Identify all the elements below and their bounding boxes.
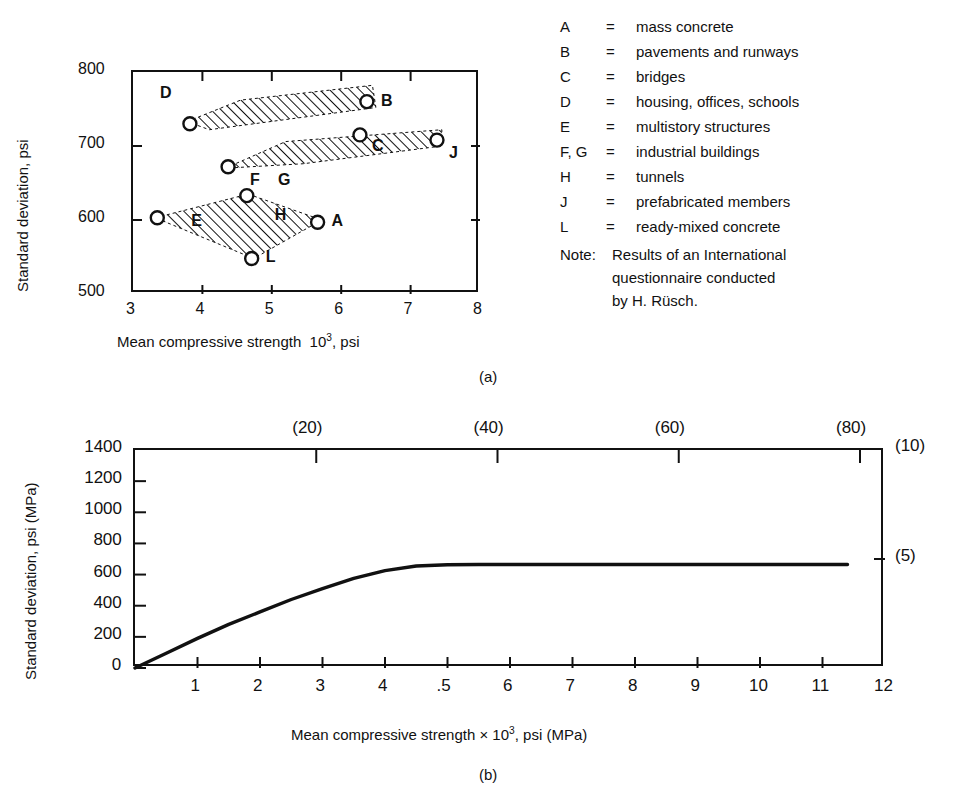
x-axis-title-pre: Mean compressive strength	[117, 333, 301, 350]
legend-item-description: mass concrete	[636, 14, 950, 39]
legend-item-description: housing, offices, schools	[636, 89, 950, 114]
point-label-l: L	[266, 248, 276, 266]
data-point-l	[245, 252, 258, 265]
x-tick-label-b-7: 7	[566, 676, 575, 696]
legend-item-equals: =	[606, 14, 636, 39]
panel-b-caption: (b)	[479, 766, 497, 783]
data-point-a	[311, 216, 324, 229]
legend-item-equals: =	[606, 164, 636, 189]
right-tick-label-5: (5)	[895, 546, 916, 566]
legend-item-j: J=prefabricated members	[560, 189, 950, 214]
legend-note-line: questionnaire conducted	[612, 266, 950, 289]
panel-a-chart: Standard deviation, psi Mean compressive…	[0, 0, 520, 390]
y-tick-label-500: 500	[78, 282, 105, 300]
legend-item-equals: =	[606, 114, 636, 139]
band-middle-band	[225, 130, 442, 168]
y-tick-label-b-800: 800	[93, 530, 121, 550]
y-tick-label-b-1400: 1400	[84, 437, 122, 457]
point-label-a: A	[332, 212, 344, 230]
y-tick-label-b-1000: 1000	[84, 499, 122, 519]
legend-item-key: B	[560, 39, 606, 64]
legend-item-key: E	[560, 114, 606, 139]
right-tick-label-10: (10)	[895, 436, 925, 456]
legend-note: Note: Results of an Internationalquestio…	[560, 243, 950, 312]
x-axis-title-b-pre: Mean compressive strength ×	[291, 726, 488, 743]
y-tick-label-b-600: 600	[93, 562, 121, 582]
x-axis-title-post: , psi	[332, 333, 360, 350]
legend-item-equals: =	[606, 64, 636, 89]
legend-item-description: prefabricated members	[636, 189, 950, 214]
x-tick-label-4: 4	[195, 300, 204, 318]
y-tick-label-800: 800	[78, 60, 105, 78]
legend-item-a: A=mass concrete	[560, 14, 950, 39]
top-tick-label-40: (40)	[474, 418, 504, 438]
point-label-h: H	[275, 206, 287, 224]
y-tick-label-600: 600	[78, 208, 105, 226]
legend-item-fg: F, G=industrial buildings	[560, 139, 950, 164]
data-point-b	[360, 95, 373, 108]
legend-item-description: ready-mixed concrete	[636, 214, 950, 239]
x-tick-label-b-2: 2	[253, 676, 262, 696]
x-tick-label-b-3: 3	[316, 676, 325, 696]
legend-item-description: tunnels	[636, 164, 950, 189]
x-tick-label-b-9: 9	[691, 676, 700, 696]
x-tick-label-7: 7	[404, 300, 413, 318]
legend-item-key: J	[560, 189, 606, 214]
x-tick-label-b-6: 6	[503, 676, 512, 696]
data-point-f	[222, 160, 235, 173]
y-tick-label-700: 700	[78, 134, 105, 152]
legend-panel: A=mass concreteB=pavements and runwaysC=…	[560, 14, 950, 312]
data-point-j	[430, 134, 443, 147]
legend-note-line: by H. Rüsch.	[612, 289, 950, 312]
legend-note-label: Note:	[560, 243, 612, 266]
legend-item-key: D	[560, 89, 606, 114]
legend-note-line: Results of an International	[612, 243, 950, 266]
legend-item-l: L=ready-mixed concrete	[560, 214, 950, 239]
panel-a-svg	[131, 70, 482, 296]
legend-item-equals: =	[606, 189, 636, 214]
x-axis-title-b-exp-base: 10	[492, 726, 509, 743]
point-label-e: E	[191, 212, 202, 230]
point-label-d: D	[160, 84, 172, 102]
point-label-g: G	[278, 171, 290, 189]
legend-item-description: industrial buildings	[636, 139, 950, 164]
panel-a-x-axis-title: Mean compressive strength 103, psi	[117, 332, 359, 350]
x-tick-label-3: 3	[126, 300, 135, 318]
legend-item-key: H	[560, 164, 606, 189]
curve-standard-deviation	[135, 564, 848, 668]
legend-note-body: Results of an Internationalquestionnaire…	[612, 243, 950, 312]
x-tick-label-b-12: 12	[874, 676, 893, 696]
top-tick-label-80: (80)	[836, 418, 866, 438]
x-tick-label-8: 8	[473, 300, 482, 318]
legend-item-equals: =	[606, 139, 636, 164]
legend-item-description: multistory structures	[636, 114, 950, 139]
x-axis-title-b-post: , psi (MPa)	[515, 726, 588, 743]
y-tick-label-b-1200: 1200	[84, 468, 122, 488]
legend-item-equals: =	[606, 214, 636, 239]
data-point-c	[353, 128, 366, 141]
panel-a-plot-area	[131, 70, 478, 292]
point-label-j: J	[449, 144, 458, 162]
band-upper-band	[187, 85, 376, 129]
legend-item-description: bridges	[636, 64, 950, 89]
legend-rows: A=mass concreteB=pavements and runwaysC=…	[560, 14, 950, 239]
top-tick-label-60: (60)	[655, 418, 685, 438]
legend-item-key: F, G	[560, 139, 606, 164]
legend-item-description: pavements and runways	[636, 39, 950, 64]
legend-item-equals: =	[606, 39, 636, 64]
x-tick-label-b-11: 11	[812, 676, 830, 696]
y-tick-label-b-400: 400	[93, 593, 121, 613]
legend-item-key: A	[560, 14, 606, 39]
point-label-c: C	[372, 137, 384, 155]
data-point-h	[240, 189, 253, 202]
top-tick-label-20: (20)	[292, 418, 322, 438]
y-tick-label-b-0: 0	[112, 655, 121, 675]
legend-item-d: D=housing, offices, schools	[560, 89, 950, 114]
panel-b-plot-area	[133, 448, 883, 666]
panel-b-x-axis-title: Mean compressive strength × 103, psi (MP…	[291, 725, 587, 743]
x-tick-label-b-10: 10	[749, 676, 768, 696]
x-tick-label-5: 5	[265, 300, 274, 318]
legend-item-b: B=pavements and runways	[560, 39, 950, 64]
band-lower-band	[155, 194, 322, 258]
legend-item-key: C	[560, 64, 606, 89]
